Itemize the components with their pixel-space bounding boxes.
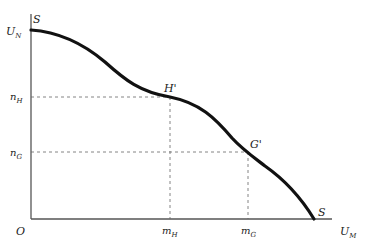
y-tick-g: nG (10, 147, 22, 161)
x-axis-label: UM (340, 225, 357, 240)
x-tick-h: mH (162, 225, 178, 239)
point-h-label: H' (163, 82, 177, 95)
curve-start-label: S (33, 13, 41, 26)
y-tick-h: nH (10, 91, 23, 105)
point-g-label: G' (250, 138, 262, 151)
y-axis-label: UN (6, 25, 22, 40)
frontier-curve (31, 30, 314, 219)
origin-label: O (16, 225, 25, 238)
curve-end-label: S (318, 206, 326, 219)
x-tick-g: mG (241, 225, 256, 239)
utility-frontier-diagram: S S UN UM O H' G' nH nG mH mG (0, 0, 372, 244)
